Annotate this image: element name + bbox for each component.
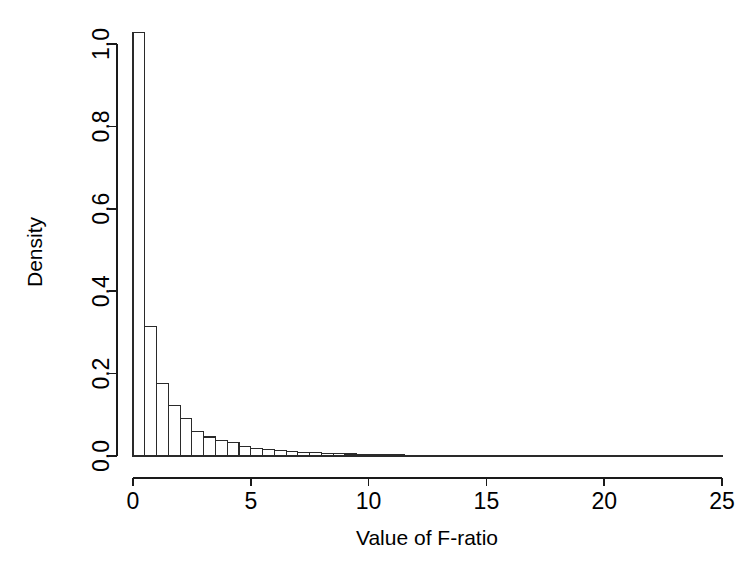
- histogram-bar: [475, 455, 487, 456]
- x-tick-label: 10: [356, 488, 382, 514]
- histogram-bar: [710, 455, 722, 456]
- histogram-bar: [463, 455, 475, 456]
- histogram-bar: [428, 455, 440, 456]
- bars-group: [133, 32, 722, 456]
- histogram-bar: [286, 452, 298, 456]
- y-tick-label: 0.8: [88, 110, 114, 142]
- histogram-bar: [333, 454, 345, 456]
- y-tick-labels: 0.00.20.40.60.81.0: [88, 28, 114, 472]
- histogram-bar: [416, 455, 428, 456]
- histogram-bar: [510, 455, 522, 456]
- histogram-bar: [133, 32, 145, 456]
- y-tick-label: 0.2: [88, 358, 114, 390]
- histogram-bar: [604, 455, 616, 456]
- histogram-bar: [581, 455, 593, 456]
- histogram-bar: [557, 455, 569, 456]
- histogram-bar: [239, 446, 251, 456]
- x-tick-labels: 0510152025: [127, 488, 735, 514]
- histogram-bar: [168, 406, 180, 456]
- y-tick-label: 1.0: [88, 28, 114, 60]
- histogram-bar: [180, 419, 192, 456]
- histogram-bar: [369, 454, 381, 456]
- histogram-bar: [698, 455, 710, 456]
- histogram-bar: [157, 383, 169, 456]
- histogram-bar: [451, 455, 463, 456]
- histogram-bar: [640, 455, 652, 456]
- histogram-bar: [251, 448, 263, 456]
- histogram-bar: [663, 455, 675, 456]
- histogram-bar: [321, 453, 333, 456]
- x-tick-label: 5: [244, 488, 257, 514]
- histogram-bar: [345, 454, 357, 456]
- histogram-bar: [545, 455, 557, 456]
- histogram-bar: [675, 455, 687, 456]
- histogram-bar: [486, 455, 498, 456]
- histogram-bar: [192, 431, 204, 456]
- histogram-bar: [145, 326, 157, 456]
- histogram-bar: [263, 449, 275, 456]
- histogram-bar: [404, 455, 416, 456]
- histogram-bar: [357, 454, 369, 456]
- histogram-bar: [628, 455, 640, 456]
- histogram-bar: [215, 441, 227, 456]
- histogram-bar: [616, 455, 628, 456]
- chart-canvas: 0.00.20.40.60.81.0 0510152025 Value of F…: [0, 0, 755, 574]
- histogram-bar: [592, 455, 604, 456]
- x-axis: [133, 478, 722, 486]
- x-tick-label: 15: [474, 488, 500, 514]
- histogram-bar: [227, 443, 239, 456]
- histogram-bar: [392, 455, 404, 456]
- histogram-bar: [380, 455, 392, 456]
- histogram-bar: [534, 455, 546, 456]
- x-axis-title: Value of F-ratio: [356, 526, 498, 549]
- histogram-bar: [298, 452, 310, 456]
- x-tick-label: 20: [591, 488, 617, 514]
- histogram-bar: [274, 451, 286, 456]
- histogram-bar: [687, 455, 699, 456]
- x-tick-label: 25: [709, 488, 735, 514]
- histogram-bar: [310, 453, 322, 456]
- histogram-bar: [498, 455, 510, 456]
- histogram-plot: 0.00.20.40.60.81.0 0510152025 Value of F…: [0, 0, 755, 574]
- y-tick-label: 0.4: [88, 275, 114, 307]
- histogram-bar: [204, 437, 216, 456]
- histogram-bar: [569, 455, 581, 456]
- y-axis: [109, 44, 117, 456]
- x-tick-label: 0: [127, 488, 140, 514]
- histogram-bar: [522, 455, 534, 456]
- histogram-bar: [439, 455, 451, 456]
- histogram-bar: [651, 455, 663, 456]
- y-axis-title: Density: [23, 216, 46, 287]
- y-tick-label: 0.0: [88, 440, 114, 472]
- y-tick-label: 0.6: [88, 193, 114, 225]
